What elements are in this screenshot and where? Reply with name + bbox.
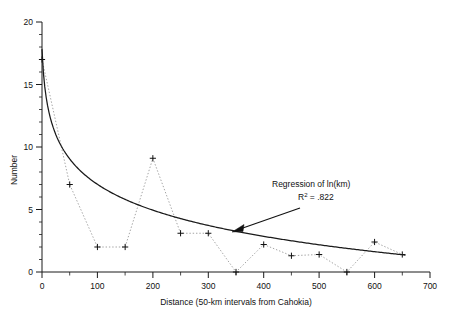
- chart-svg: 20 15 10 5 0 Number: [0, 0, 454, 312]
- x-ticklabel-700: 700: [423, 281, 437, 291]
- y-ticklabel-10: 10: [24, 142, 34, 152]
- x-ticklabel-300: 300: [201, 281, 215, 291]
- x-ticklabel-400: 400: [257, 281, 271, 291]
- x-ticklabel-100: 100: [90, 281, 104, 291]
- annotation-title: Regression of ln(km): [272, 179, 351, 189]
- x-ticklabel-0: 0: [40, 281, 45, 291]
- y-ticklabel-5: 5: [28, 205, 33, 215]
- x-ticklabel-200: 200: [146, 281, 160, 291]
- x-ticklabel-500: 500: [312, 281, 326, 291]
- r-value: = .822: [307, 192, 334, 202]
- y-ticklabel-20: 20: [24, 17, 34, 27]
- x-ticklabel-600: 600: [368, 281, 382, 291]
- y-ticklabel-15: 15: [24, 80, 34, 90]
- y-ticklabel-0: 0: [28, 267, 33, 277]
- x-axis-title: Distance (50-km intervals from Cahokia): [160, 297, 312, 307]
- annotation-rsquared: R2 = .822: [298, 192, 334, 202]
- y-axis-title: Number: [9, 155, 19, 185]
- chart-figure: 20 15 10 5 0 Number: [0, 0, 454, 312]
